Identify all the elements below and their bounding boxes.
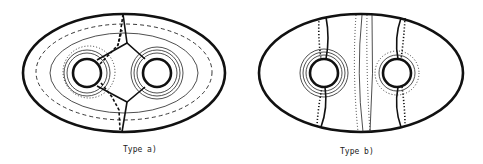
diagram-canvas: Type a) Type b) — [0, 0, 483, 164]
hole-left-a — [73, 59, 101, 87]
central-band-solid-right-b — [370, 15, 373, 132]
central-band-solid-left-b — [359, 15, 363, 132]
vertical-left-bottom-solid-b — [321, 87, 326, 127]
hole-right-b — [383, 59, 411, 87]
central-band-dotted-left-b — [354, 15, 358, 132]
label-type-b: Type b) — [340, 147, 374, 156]
vertical-right-bottom-solid-b — [397, 87, 401, 127]
panel-type-a: Type a) — [23, 14, 225, 154]
outer-surface-boundary-a — [23, 14, 225, 132]
vertical-curve-top-dashed-a — [118, 14, 123, 45]
vertical-left-top-solid-b — [326, 17, 328, 59]
vertical-right-bottom-dotted-b — [402, 87, 405, 126]
hole-left-b — [310, 59, 338, 87]
vertical-curve-top-a — [123, 14, 127, 43]
label-type-a: Type a) — [123, 145, 157, 154]
ring-left-b-3 — [300, 49, 348, 97]
ring-right-a-2 — [134, 50, 180, 96]
vertical-curve-bottom-a — [122, 102, 127, 132]
vertical-right-top-dotted-b — [401, 18, 405, 59]
central-band-dotted-right-b — [367, 15, 370, 132]
dashed-curve-outer-a — [36, 24, 212, 120]
ring-left-b-1 — [306, 55, 342, 91]
hole-right-a — [143, 59, 171, 87]
panel-type-b: Type b) — [259, 14, 463, 156]
vertical-right-top-solid-b — [397, 18, 401, 59]
ring-right-b-1 — [379, 55, 415, 91]
